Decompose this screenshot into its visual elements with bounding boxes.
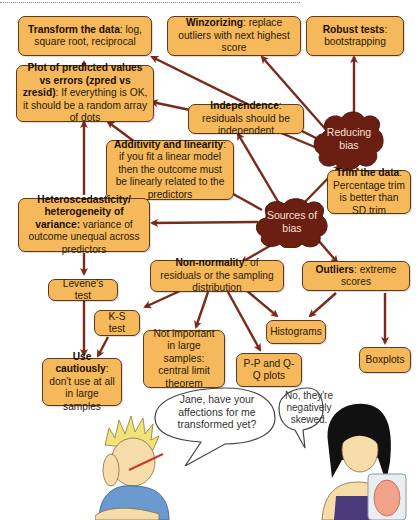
sources-of-bias-hub: Sources of bias [254,198,330,248]
box-text: Levene's test [54,278,112,303]
box-bold-label: Transform the data [28,24,120,35]
box-heteroscedasticity: Heteroscedasticity/ heterogeneity of var… [18,198,150,252]
sources-of-bias-line2: bias [254,222,330,235]
box-text: Histograms [270,326,322,339]
box-robust-tests: Robust tests: bootstrapping [306,16,404,56]
box-outliers: Outliers: extreme scores [302,261,410,291]
box-non-normality: Non-normality: of residuals or the sampl… [150,260,284,292]
box-bold-label: Robust tests [323,24,385,35]
box-bold-label: Outliers [316,264,355,275]
box-text: K-S test [100,311,134,336]
box-histograms: Histograms [266,320,326,344]
box-levenes-test: Levene's test [48,279,118,301]
box-trim-the-data: Trim the data: Percentage trim is better… [327,170,411,214]
box-bold-label: Trim the data [336,167,399,178]
box-bold-label: Use cautiously [55,351,105,375]
box-use-cautiously: Use cautiously: don't use at all in larg… [42,358,122,406]
box-bold-label: Winzorizing [186,17,243,28]
box-text: Not important in large samples: central … [149,328,219,391]
reducing-bias-line1: Reducing [312,126,386,139]
box-pp-qq-plots: P-P and Q-Q plots [236,353,302,387]
box-transform-the-data: Transform the data: log, square root, re… [18,16,152,56]
box-text: P-P and Q-Q plots [242,358,296,383]
box-plot-predicted-vs-errors: Plot of predicted values vs errors (zpre… [16,65,154,122]
sources-of-bias-line1: Sources of [254,209,330,222]
box-bold-label: Non-normality [175,257,244,268]
box-text: Boxplots [365,354,404,367]
box-additivity-linearity: Additivity and linearity: if you fit a l… [106,140,234,200]
box-bold-label: Additivity and linearity [114,139,223,150]
male-character-illustration [95,410,185,520]
box-bold-label: Independence [210,100,279,111]
box-boxplots: Boxplots [359,347,411,373]
reducing-bias-line2: bias [312,139,386,152]
box-winzorizing: Winzorizing: replace outliers with next … [167,16,301,56]
box-ks-test: K-S test [94,310,140,336]
box-not-important: Not important in large samples: central … [143,330,225,388]
female-character-illustration [318,402,416,520]
reducing-bias-hub: Reducing bias [312,110,386,172]
box-independence: Independence: residuals should be indepe… [188,104,304,134]
